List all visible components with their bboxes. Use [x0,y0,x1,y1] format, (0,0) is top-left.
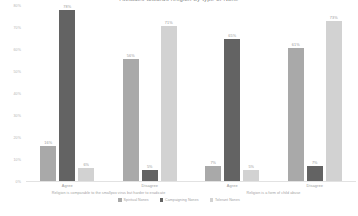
bar[interactable] [307,166,323,181]
y-axis-tick: 10% [14,158,22,162]
category-panel: AgreeDisagree [191,183,356,188]
legend-label: Tolerant Nones [215,198,240,202]
category-label: Agree [191,183,274,188]
bar[interactable] [161,26,177,181]
bar[interactable] [205,166,221,181]
bar-slot: 71% [161,6,177,181]
bar-group: 61%7%73% [274,6,357,181]
bar-slot: 56% [123,6,139,181]
y-axis-tick: 40% [14,92,22,96]
legend-label: Spiritual Nones [124,198,149,202]
y-axis-tick: 30% [14,114,22,118]
bar-value-label: 5% [147,165,153,169]
bar-value-label: 16% [44,141,52,145]
bar-value-label: 7% [210,161,216,165]
legend-item[interactable]: Campaigning Nones [160,198,199,202]
bar[interactable] [326,21,342,181]
legend-label: Campaigning Nones [165,198,198,202]
bar-groups: 16%78%6%56%5%71%7%65%5%61%7%73% [26,6,356,181]
bar-value-label: 71% [165,21,173,25]
bar-slot: 5% [142,6,158,181]
bar-chart: Attitudes towards religion by type of No… [0,0,358,216]
bar-value-label: 73% [330,16,338,20]
bar[interactable] [243,170,259,181]
bar-group: 7%65%5% [191,6,274,181]
bar-slot: 61% [288,6,304,181]
chart-title: Attitudes towards religion by type of No… [0,0,358,3]
y-axis-tick: 60% [14,48,22,52]
bar-value-label: 78% [63,5,71,9]
bar-value-label: 61% [292,43,300,47]
y-axis-tick: 80% [14,4,22,8]
chart-panel: 16%78%6%56%5%71% [26,6,191,181]
bar-value-label: 6% [83,163,89,167]
category-label: Disagree [274,183,357,188]
bar[interactable] [224,39,240,181]
bar-group: 56%5%71% [109,6,192,181]
bar[interactable] [40,146,56,181]
legend-swatch-icon [118,198,121,201]
bar-value-label: 7% [312,161,318,165]
panel-captions-row: Religion is comparable to the smallpox v… [26,191,356,195]
bar-slot: 7% [307,6,323,181]
legend-item[interactable]: Tolerant Nones [210,198,240,202]
legend-swatch-icon [160,198,163,201]
bar[interactable] [78,168,94,181]
y-axis-tick: 50% [14,70,22,74]
bar-slot: 16% [40,6,56,181]
bar[interactable] [59,10,75,181]
bar-slot: 7% [205,6,221,181]
category-label: Disagree [109,183,192,188]
category-labels-row: AgreeDisagreeAgreeDisagree [26,183,356,188]
chart-panel: 7%65%5%61%7%73% [191,6,356,181]
x-axis-line [26,181,356,182]
category-label: Agree [26,183,109,188]
legend-swatch-icon [210,198,213,201]
y-axis-labels: 80%70%60%50%40%30%20%10%0% [0,6,24,182]
category-panel: AgreeDisagree [26,183,191,188]
bar-slot: 78% [59,6,75,181]
bar[interactable] [288,48,304,181]
bar-value-label: 65% [228,34,236,38]
bar-value-label: 5% [248,165,254,169]
bar[interactable] [142,170,158,181]
bar-group: 16%78%6% [26,6,109,181]
panel-caption: Religion is a form of child abuse [191,191,356,195]
y-axis-tick: 0% [16,180,21,184]
plot-area: 16%78%6%56%5%71%7%65%5%61%7%73% [26,6,356,182]
bar-value-label: 56% [127,54,135,58]
bar[interactable] [123,59,139,182]
y-axis-tick: 20% [14,136,22,140]
bar-slot: 5% [243,6,259,181]
y-axis-tick: 70% [14,26,22,30]
legend-item[interactable]: Spiritual Nones [118,198,149,202]
panel-caption: Religion is comparable to the smallpox v… [26,191,191,195]
bar-slot: 73% [326,6,342,181]
bar-slot: 65% [224,6,240,181]
chart-legend: Spiritual NonesCampaigning NonesTolerant… [0,198,358,202]
bar-slot: 6% [78,6,94,181]
